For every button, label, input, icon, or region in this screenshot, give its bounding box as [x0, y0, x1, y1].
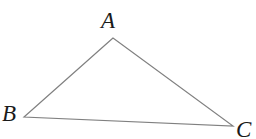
- triangle-outline: [24, 38, 233, 126]
- triangle-figure-canvas: A B C: [0, 0, 256, 139]
- vertex-label-c: C: [236, 118, 251, 139]
- vertex-label-b: B: [2, 102, 16, 125]
- triangle-shape: [0, 0, 256, 139]
- vertex-label-a: A: [101, 9, 115, 32]
